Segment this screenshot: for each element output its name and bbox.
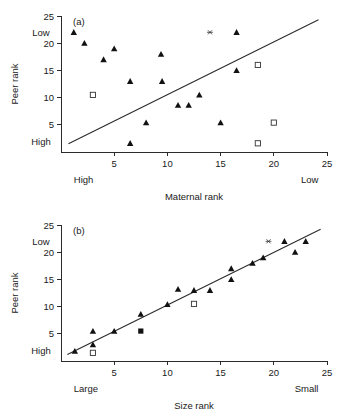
data-point-triangle: [175, 286, 181, 292]
data-point-triangle: [158, 51, 164, 57]
x-tick-label: 5: [112, 158, 117, 169]
x-axis-low-end-label: High: [74, 174, 94, 185]
y-tick-label: 15: [43, 274, 54, 285]
x-axis-title: Size rank: [174, 400, 214, 411]
x-axis-high-end-label: Small: [295, 383, 319, 394]
x-axis-low-end-label: Large: [74, 383, 98, 394]
data-point-triangle: [159, 78, 165, 84]
y-tick-label: 10: [43, 301, 54, 312]
data-point-square-open: [90, 92, 95, 97]
y-tick-label: 25: [43, 11, 54, 22]
y-axis-title: Peer rank: [9, 272, 20, 313]
data-point-triangle: [233, 67, 239, 73]
y-axis-high-end-label: Low: [32, 236, 50, 247]
x-axis-title: Maternal rank: [165, 191, 223, 202]
x-tick-label: 15: [215, 158, 226, 169]
y-tick-label: 5: [49, 328, 54, 339]
y-tick-label: 20: [43, 38, 54, 49]
x-tick-label: 15: [215, 367, 226, 378]
data-point-triangle: [217, 119, 223, 125]
y-tick-label: 10: [43, 92, 54, 103]
data-point-triangle: [138, 311, 144, 317]
data-point-triangle: [127, 140, 133, 146]
data-point-triangle: [196, 92, 202, 98]
data-point-triangle: [207, 287, 213, 293]
data-point-triangle: [249, 260, 255, 266]
y-axis-low-end-label: High: [31, 345, 51, 356]
x-tick-label: 10: [162, 158, 173, 169]
data-point-triangle: [303, 238, 309, 244]
x-tick-label: 25: [322, 367, 333, 378]
x-tick-label: 5: [112, 367, 117, 378]
data-point-triangle: [281, 238, 287, 244]
data-point-square-open: [255, 62, 260, 67]
x-tick-label: 20: [269, 158, 280, 169]
data-point-triangle: [100, 56, 106, 62]
panel-a-maternal-rank: 510152025510152025(a)LowHighPeer rankHig…: [0, 0, 337, 208]
data-point-triangle: [191, 287, 197, 293]
data-point-triangle: [228, 276, 234, 282]
data-point-triangle: [233, 29, 239, 35]
diagonal-reference-line: [68, 20, 318, 144]
data-point-triangle: [260, 254, 266, 260]
data-point-triangle: [127, 78, 133, 84]
data-point-square-open: [255, 141, 260, 146]
data-point-square-open: [191, 301, 196, 306]
x-tick-label: 20: [269, 367, 280, 378]
y-tick-label: 20: [43, 247, 54, 258]
data-point-square-open: [271, 120, 276, 125]
panel-b-plot: 510152025510152025(b)LowHighPeer rankLar…: [0, 209, 337, 417]
y-tick-label: 25: [43, 220, 54, 231]
data-point-triangle: [185, 102, 191, 108]
y-tick-label: 15: [43, 65, 54, 76]
data-point-triangle: [111, 45, 117, 51]
data-point-triangle: [175, 102, 181, 108]
data-point-triangle: [90, 328, 96, 334]
y-tick-label: 5: [49, 119, 54, 130]
data-point-square-open: [90, 350, 95, 355]
data-point-asterisk: [207, 30, 213, 34]
data-point-asterisk: [266, 239, 272, 243]
data-point-triangle: [292, 249, 298, 255]
panel-b-size-rank: 510152025510152025(b)LowHighPeer rankLar…: [0, 209, 337, 417]
plot-axes: [61, 16, 327, 152]
x-tick-label: 25: [322, 158, 333, 169]
data-point-triangle: [81, 40, 87, 46]
data-point-square-filled: [138, 328, 143, 333]
panel-label: (b): [73, 225, 85, 236]
figure-container: 510152025510152025(a)LowHighPeer rankHig…: [0, 0, 337, 417]
y-axis-high-end-label: Low: [32, 27, 50, 38]
data-point-triangle: [72, 348, 78, 354]
data-point-triangle: [143, 119, 149, 125]
panel-label: (a): [73, 16, 85, 27]
data-point-triangle: [71, 29, 77, 35]
x-axis-high-end-label: Low: [301, 174, 319, 185]
data-point-triangle: [228, 265, 234, 271]
y-axis-title: Peer rank: [9, 63, 20, 104]
y-axis-low-end-label: High: [31, 136, 51, 147]
x-tick-label: 10: [162, 367, 173, 378]
panel-a-plot: 510152025510152025(a)LowHighPeer rankHig…: [0, 0, 337, 208]
